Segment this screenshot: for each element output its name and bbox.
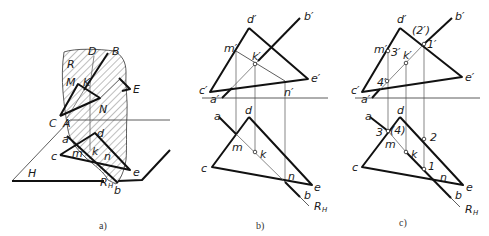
label-RH-sub: H <box>322 206 328 214</box>
label-m-prime: m′ <box>374 43 388 56</box>
label-c: c <box>51 150 57 163</box>
point-k <box>404 150 408 154</box>
label-e-prime: e′ <box>465 71 475 84</box>
label-R: R <box>67 58 75 71</box>
panel-b: d′ b′ m′ k′ e′ c′ a′ n′ a d m k c n e b … <box>199 10 328 232</box>
label-e-prime: e′ <box>311 72 321 85</box>
label-c: c <box>201 162 207 175</box>
line-ab-top-lower <box>285 182 300 197</box>
line-ab-top-upper <box>219 117 236 134</box>
label-e: e <box>466 181 473 194</box>
label-a-prime: a′ <box>210 93 220 106</box>
label-m-prime: m′ <box>224 42 238 55</box>
caption-c: c) <box>399 217 407 229</box>
label-k-prime: k′ <box>252 50 261 63</box>
label-b-prime: b′ <box>455 10 465 23</box>
label-m: m <box>232 141 243 154</box>
point-2 <box>422 137 426 141</box>
label-RH-sub: H <box>473 209 479 217</box>
projection-diagram: D B R M K E N C A a d c m k n e H R H b … <box>0 0 489 236</box>
label-d: d <box>97 127 105 140</box>
label-e: e <box>133 166 140 179</box>
label-D: D <box>88 45 96 58</box>
point-1-prime <box>422 42 426 46</box>
label-m: m <box>385 138 396 151</box>
label-n-prime: n′ <box>284 86 294 99</box>
caption-a: a) <box>99 220 107 232</box>
panel-c: d′ b′ (2′) 1′ m′ 3′ k′ e′ 4′ c′ a′ a d 3… <box>351 10 480 229</box>
label-n: n <box>104 150 111 163</box>
label-M: M <box>66 76 76 89</box>
label-4-prime: 4′ <box>377 76 387 89</box>
label-k: k <box>411 148 418 161</box>
label-d: d <box>397 104 405 117</box>
label-K: K <box>83 76 91 89</box>
point-k-top <box>253 150 257 154</box>
label-k-prime: k′ <box>403 49 412 62</box>
label-1-prime: 1′ <box>427 38 437 51</box>
label-A: A <box>62 117 71 130</box>
label-e: e <box>314 181 321 194</box>
label-d-prime: d′ <box>397 13 407 26</box>
label-c-prime: c′ <box>351 84 360 97</box>
label-4: (4) <box>390 124 406 137</box>
label-d-prime: d′ <box>247 13 257 26</box>
label-n: n <box>440 171 447 184</box>
label-b: b <box>304 189 311 202</box>
label-c: c <box>352 161 358 174</box>
label-E: E <box>133 83 140 96</box>
label-k: k <box>92 145 99 158</box>
label-B: B <box>112 45 120 58</box>
panel-a: D B R M K E N C A a d c m k n e H R H b … <box>12 45 170 232</box>
label-H: H <box>28 167 36 180</box>
label-b: b <box>455 189 462 202</box>
label-k: k <box>260 148 267 161</box>
label-2-prime: (2′) <box>412 24 430 37</box>
label-a: a <box>365 110 372 123</box>
label-RH: R <box>314 200 322 213</box>
label-b: b <box>114 184 121 197</box>
label-a-prime: a′ <box>361 93 371 106</box>
label-c-prime: c′ <box>199 84 208 97</box>
label-C: C <box>49 117 57 130</box>
label-d: d <box>245 104 253 117</box>
caption-b: b) <box>256 220 264 232</box>
label-N: N <box>99 103 107 116</box>
label-1: 1 <box>428 160 435 173</box>
label-3: 3 <box>376 126 383 139</box>
label-m: m <box>72 147 83 160</box>
label-n: n <box>288 170 295 183</box>
point-1 <box>422 167 426 171</box>
label-3-prime: 3′ <box>391 46 401 59</box>
label-a: a <box>214 110 221 123</box>
label-RH: R <box>100 176 108 189</box>
label-b-prime: b′ <box>304 10 314 23</box>
label-RH: R <box>465 203 473 216</box>
label-2: 2 <box>430 131 437 144</box>
label-a: a <box>62 133 69 146</box>
